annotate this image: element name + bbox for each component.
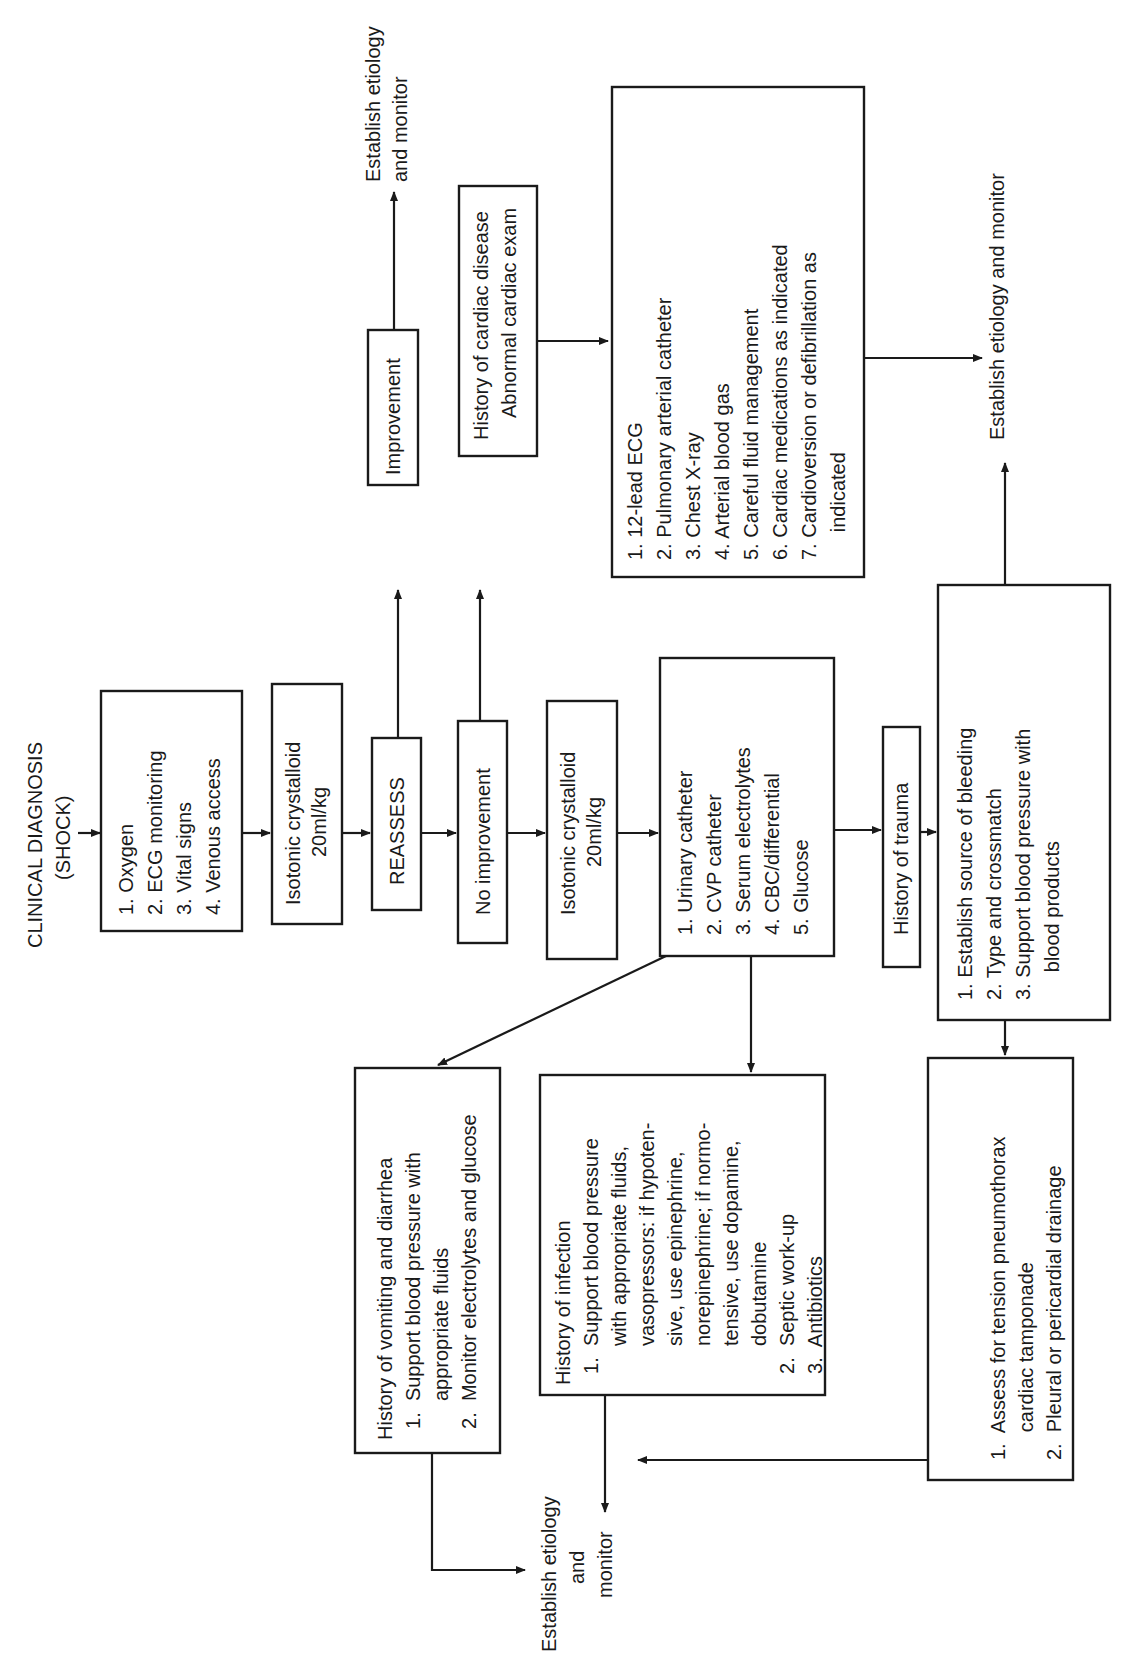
svg-text:1. Assess for tension pneumot: 1. Assess for tension pneumothorax: [987, 1136, 1009, 1460]
svg-text:Improvement: Improvement: [382, 358, 404, 475]
improvement-outcome-text: Establish etiology and monitor: [362, 26, 411, 182]
svg-text:5. Glucose: 5. Glucose: [790, 839, 812, 935]
svg-text:5. Careful fluid management: 5. Careful fluid management: [740, 308, 762, 560]
svg-text:4. CBC/differential: 4. CBC/differential: [761, 773, 783, 935]
svg-text:3. Support blood pressure wit: 3. Support blood pressure with: [1012, 729, 1034, 1000]
shock-flowchart: CLINICAL DIAGNOSIS (SHOCK) 1. Oxygen 2. …: [0, 0, 1125, 1657]
final-outcome-text: Establish etiology and monitor: [538, 1496, 616, 1652]
svg-text:1. 12-lead ECG: 1. 12-lead ECG: [624, 422, 646, 560]
svg-text:2. Monitor electrolytes and g: 2. Monitor electrolytes and glucose: [458, 1114, 480, 1440]
svg-text:(SHOCK): (SHOCK): [52, 796, 74, 880]
svg-text:tensive, use dopamine,: tensive, use dopamine,: [720, 1140, 742, 1385]
svg-text:No improvement: No improvement: [472, 768, 494, 915]
svg-text:Establish etiology: Establish etiology: [362, 26, 384, 182]
svg-text:Isotonic crystalloid: Isotonic crystalloid: [557, 752, 579, 915]
svg-text:2. Pulmonary arterial cathete: 2. Pulmonary arterial catheter: [653, 297, 675, 560]
svg-text:3. Serum electrolytes: 3. Serum electrolytes: [732, 747, 754, 935]
no-improvement-text: No improvement: [472, 768, 494, 915]
svg-text:sive, use epinephrine,: sive, use epinephrine,: [664, 1152, 686, 1385]
svg-text:and: and: [566, 1551, 588, 1584]
arrow-vomiting-to-final: [432, 1453, 525, 1570]
improvement-text: Improvement: [382, 358, 404, 475]
svg-text:2. Type and crossmatch: 2. Type and crossmatch: [983, 788, 1005, 1000]
svg-text:1. Support blood pressure: 1. Support blood pressure: [580, 1138, 602, 1385]
svg-text:20ml/kg: 20ml/kg: [308, 787, 330, 857]
svg-text:4. Arterial blood gas: 4. Arterial blood gas: [711, 383, 733, 560]
svg-text:3. Antibiotics: 3. Antibiotics: [804, 1256, 826, 1385]
svg-text:History of trauma: History of trauma: [890, 782, 912, 935]
svg-text:2. CVP catheter: 2. CVP catheter: [703, 794, 725, 935]
svg-text:History of cardiac disease: History of cardiac disease: [470, 211, 492, 440]
svg-text:cardiac tamponade: cardiac tamponade: [1015, 1262, 1037, 1460]
svg-text:Abnormal cardiac exam: Abnormal cardiac exam: [498, 208, 520, 418]
svg-text:Establish etiology: Establish etiology: [538, 1496, 560, 1652]
cardiac-outcome-text: Establish etiology and monitor: [986, 173, 1008, 440]
svg-text:6. Cardiac medications as ind: 6. Cardiac medications as indicated: [769, 244, 791, 560]
svg-text:1. Establish source of bleedi: 1. Establish source of bleeding: [954, 728, 976, 1000]
svg-text:monitor: monitor: [594, 1531, 616, 1598]
svg-text:norepinephrine; if normo-: norepinephrine; if normo-: [692, 1123, 714, 1385]
svg-text:appropriate fluids: appropriate fluids: [430, 1248, 452, 1440]
svg-text:3. Chest X-ray: 3. Chest X-ray: [682, 432, 704, 560]
svg-text:2. Septic work-up: 2. Septic work-up: [776, 1214, 798, 1385]
svg-text:3. Vital signs: 3. Vital signs: [173, 802, 195, 915]
svg-text:History of infection: History of infection: [552, 1220, 574, 1385]
svg-text:1. Urinary catheter: 1. Urinary catheter: [674, 770, 696, 935]
svg-text:2. ECG monitoring: 2. ECG monitoring: [144, 750, 166, 915]
svg-text:4. Venous access: 4. Venous access: [202, 758, 224, 915]
title-clinical-diagnosis: CLINICAL DIAGNOSIS: [24, 742, 46, 948]
svg-text:Isotonic crystalloid: Isotonic crystalloid: [282, 742, 304, 905]
reassess-text: REASSESS: [386, 777, 408, 885]
svg-text:History of vomiting and diarrh: History of vomiting and diarrhea: [374, 1157, 396, 1440]
svg-text:20ml/kg: 20ml/kg: [583, 797, 605, 867]
trauma-history-text: History of trauma: [890, 782, 912, 935]
svg-text:1. Support blood pressure wit: 1. Support blood pressure with: [402, 1152, 424, 1440]
arrow-diagnostics-to-vomiting: [438, 956, 666, 1065]
svg-text:vasopressors: if hypoten-: vasopressors: if hypoten-: [636, 1123, 658, 1385]
title-shock: (SHOCK): [52, 796, 74, 880]
svg-text:1. Oxygen: 1. Oxygen: [115, 824, 137, 915]
svg-text:indicated: indicated: [827, 452, 849, 560]
svg-text:blood products: blood products: [1041, 841, 1063, 1000]
svg-text:Establish etiology and monitor: Establish etiology and monitor: [986, 173, 1008, 440]
svg-text:CLINICAL DIAGNOSIS: CLINICAL DIAGNOSIS: [24, 742, 46, 948]
svg-text:7. Cardioversion or defibrill: 7. Cardioversion or defibrillation as: [798, 252, 820, 560]
svg-text:2. Pleural or pericardial dra: 2. Pleural or pericardial drainage: [1043, 1165, 1065, 1460]
svg-text:and monitor: and monitor: [389, 76, 411, 182]
svg-text:REASSESS: REASSESS: [386, 777, 408, 885]
svg-text:with appropriate fluids,: with appropriate fluids,: [608, 1146, 630, 1385]
svg-text:dobutamine: dobutamine: [748, 1242, 770, 1385]
